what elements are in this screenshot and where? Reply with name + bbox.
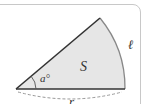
arc-length-label: ℓ bbox=[128, 37, 133, 53]
sector-diagram bbox=[0, 0, 146, 104]
radius-label: r bbox=[69, 94, 74, 104]
angle-label: a° bbox=[40, 72, 50, 84]
area-label: S bbox=[80, 59, 87, 75]
